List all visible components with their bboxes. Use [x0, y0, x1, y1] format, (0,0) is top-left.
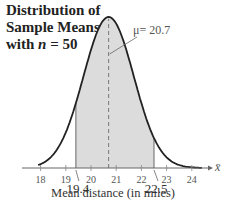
x-axis-symbol: x̄	[214, 160, 221, 174]
x-tick-label: 21	[111, 174, 121, 185]
upper-bound-leader	[154, 170, 158, 181]
mean-annotation: μ= 20.7	[133, 23, 170, 37]
x-tick-label: 18	[36, 174, 46, 185]
x-axis-arrow-icon	[208, 166, 213, 171]
shaded-region	[76, 17, 154, 168]
x-axis-title: Mean distance (in miles)	[0, 186, 226, 201]
x-tick-label: 24	[187, 174, 197, 185]
lower-bound-leader	[76, 170, 79, 181]
